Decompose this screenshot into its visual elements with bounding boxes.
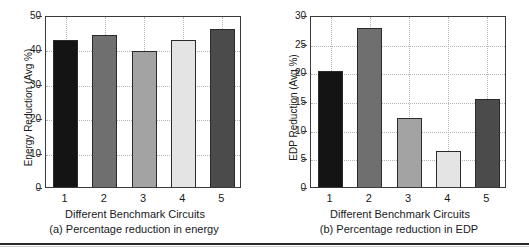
bar-3 xyxy=(397,118,422,187)
x-tick-label: 2 xyxy=(354,192,384,204)
x-tick-label: 1 xyxy=(315,192,345,204)
y-tick-mark xyxy=(302,131,307,132)
y-tick-mark xyxy=(302,188,307,189)
y-tick-mark xyxy=(302,16,307,17)
panel-caption-a: (a) Percentage reduction in energy xyxy=(10,223,258,235)
y-tick-mark xyxy=(37,85,42,86)
x-axis-label-b: Different Benchmark Circuits xyxy=(285,208,515,220)
panel-caption-b: (b) Percentage reduction in EDP xyxy=(275,223,523,235)
bar-5 xyxy=(475,99,500,187)
y-tick-mark xyxy=(302,73,307,74)
figure-bottom-rule xyxy=(0,243,529,245)
y-tick-mark xyxy=(37,119,42,120)
y-tick-mark xyxy=(302,45,307,46)
y-tick-mark xyxy=(37,188,42,189)
figure-container: Energy Reduction (Avg %) 01020304050 123… xyxy=(0,0,529,250)
x-tick-label: 4 xyxy=(432,192,462,204)
bar-4 xyxy=(171,40,196,187)
x-tick-label: 1 xyxy=(50,192,80,204)
bar-1 xyxy=(53,40,78,187)
chart-panel-a: Energy Reduction (Avg %) 01020304050 123… xyxy=(0,0,264,240)
bar-2 xyxy=(92,35,117,187)
bar-series-a xyxy=(46,17,240,187)
x-axis-label-a: Different Benchmark Circuits xyxy=(20,208,250,220)
x-tick-label: 2 xyxy=(89,192,119,204)
figure-bottom-rule-light xyxy=(0,246,529,247)
x-tick-label: 5 xyxy=(206,192,236,204)
chart-panel-b: EDP Reduction (Avg %) 051015202530 12345… xyxy=(265,0,529,240)
y-tick-mark xyxy=(302,102,307,103)
y-tick-mark xyxy=(37,16,42,17)
x-tick-label: 3 xyxy=(393,192,423,204)
bar-series-b xyxy=(311,17,505,187)
y-axis-ticks-b: 051015202530 xyxy=(265,16,306,188)
bar-2 xyxy=(357,28,382,187)
x-tick-label: 3 xyxy=(128,192,158,204)
y-tick-mark xyxy=(37,50,42,51)
bar-4 xyxy=(436,151,461,187)
y-tick-mark xyxy=(302,159,307,160)
bar-3 xyxy=(132,51,157,187)
x-tick-label: 4 xyxy=(167,192,197,204)
plot-area-a xyxy=(45,16,241,188)
plot-area-b xyxy=(310,16,506,188)
x-tick-label: 5 xyxy=(471,192,501,204)
bar-1 xyxy=(318,71,343,187)
y-axis-ticks-a: 01020304050 xyxy=(0,16,41,188)
bar-5 xyxy=(210,29,235,187)
y-tick-mark xyxy=(37,154,42,155)
